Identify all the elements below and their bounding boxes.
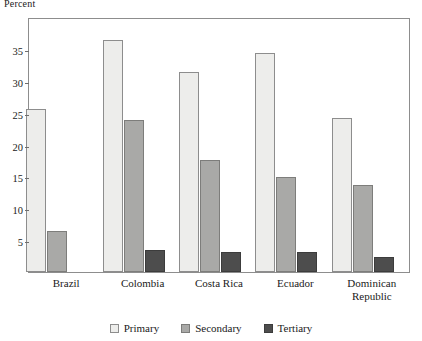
bar-brazil-primary bbox=[26, 109, 46, 272]
bar-colombia-primary bbox=[103, 40, 123, 272]
y-axis-tick bbox=[25, 115, 29, 116]
x-axis-category-label: Costa Rica bbox=[181, 277, 257, 290]
legend-item-secondary: Secondary bbox=[181, 322, 241, 334]
y-axis-tick bbox=[25, 83, 29, 84]
x-axis-category-label: Colombia bbox=[104, 277, 180, 290]
bar-colombia-tertiary bbox=[145, 250, 165, 272]
bar-dominican-republic-tertiary bbox=[374, 257, 394, 272]
legend-label: Primary bbox=[124, 322, 159, 334]
legend-swatch-icon bbox=[264, 324, 273, 333]
bar-dominican-republic-primary bbox=[332, 118, 352, 272]
y-axis-title: Percent bbox=[4, 0, 35, 9]
plot-inner bbox=[29, 19, 409, 272]
bar-colombia-secondary bbox=[124, 120, 144, 272]
bar-costa-rica-secondary bbox=[200, 160, 220, 272]
y-axis-tick-label: 10 bbox=[13, 205, 24, 216]
y-axis-tick bbox=[25, 210, 29, 211]
y-axis-tick bbox=[25, 147, 29, 148]
bar-brazil-secondary bbox=[47, 231, 67, 272]
chart-page: Percent 5101520253035 PrimarySecondaryTe… bbox=[0, 0, 422, 341]
chart-legend: PrimarySecondaryTertiary bbox=[0, 322, 422, 334]
plot-area: 5101520253035 bbox=[28, 18, 410, 273]
y-axis-tick-label: 20 bbox=[13, 141, 24, 152]
y-axis-tick bbox=[25, 178, 29, 179]
legend-item-tertiary: Tertiary bbox=[264, 322, 313, 334]
x-axis-category-label: Brazil bbox=[28, 277, 104, 290]
bar-ecuador-tertiary bbox=[297, 252, 317, 272]
bar-ecuador-secondary bbox=[276, 177, 296, 272]
legend-swatch-icon bbox=[110, 324, 119, 333]
bar-costa-rica-tertiary bbox=[221, 252, 241, 272]
y-axis-tick-label: 30 bbox=[13, 77, 24, 88]
bar-ecuador-primary bbox=[255, 53, 275, 272]
x-axis-category-label: Ecuador bbox=[257, 277, 333, 290]
legend-label: Secondary bbox=[195, 322, 241, 334]
legend-swatch-icon bbox=[181, 324, 190, 333]
y-axis-tick-label: 25 bbox=[13, 109, 24, 120]
bar-costa-rica-primary bbox=[179, 72, 199, 272]
x-axis-category-label: Dominican Republic bbox=[334, 277, 410, 303]
y-axis-tick bbox=[25, 242, 29, 243]
legend-item-primary: Primary bbox=[110, 322, 159, 334]
bar-dominican-republic-secondary bbox=[353, 185, 373, 272]
y-axis-tick bbox=[25, 51, 29, 52]
y-axis-tick-label: 5 bbox=[18, 237, 23, 248]
y-axis-tick-label: 15 bbox=[13, 173, 24, 184]
legend-label: Tertiary bbox=[278, 322, 313, 334]
y-axis-tick-label: 35 bbox=[13, 45, 24, 56]
